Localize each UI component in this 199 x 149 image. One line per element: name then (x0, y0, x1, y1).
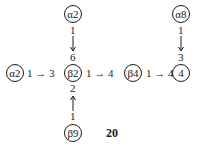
edge-alpha2-top-from-pos: 1 (70, 25, 76, 36)
edge-beta2-to-beta4: 1 → 4 (86, 68, 114, 79)
edge-alpha8-to-pos: 3 (178, 52, 184, 63)
edge-beta9-from-pos: 1 (70, 111, 76, 122)
edge-beta9-to-pos: 2 (70, 83, 76, 94)
edge-alpha8-from-pos: 1 (178, 25, 184, 36)
node-alpha8: α8 (172, 5, 190, 23)
node-beta4: β4 (124, 64, 142, 82)
arrow-down-icon (177, 36, 185, 52)
arrow-down-icon (69, 36, 77, 52)
node-beta2: β2 (64, 64, 82, 82)
node-alpha2-left: α2 (6, 64, 24, 82)
node-alpha2-top: α2 (64, 5, 82, 23)
node-4: 4 (172, 64, 190, 82)
edge-alpha2-top-to-pos: 6 (70, 52, 76, 63)
arrow-up-icon (69, 95, 77, 111)
edge-beta4-to-4: 1 → 4 (146, 68, 174, 79)
structure-number: 20 (106, 126, 118, 141)
node-beta9: β9 (64, 124, 82, 142)
edge-alpha2-to-beta2: 1 → 3 (27, 68, 55, 79)
